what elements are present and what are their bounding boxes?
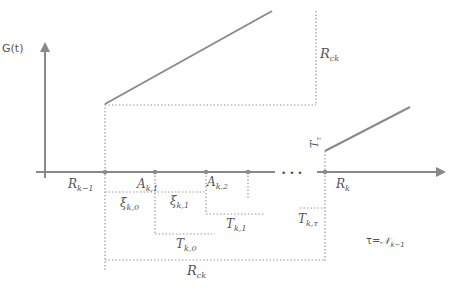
label-t-tau-vertical: Tτ — [308, 137, 323, 148]
label-r-k-minus-1: Rk−1 — [67, 177, 94, 193]
y-axis-label: G(t) — [2, 42, 23, 55]
label-t-ktau: Tk,τ — [298, 212, 318, 228]
renewal-process-diagram: G(t) Rk−1 Ak,1 Ak,2 • • • Rk ξk,0 ξk,1 — [0, 0, 463, 295]
ellipsis: • • • — [281, 168, 303, 178]
label-t-k0: Tk,0 — [176, 237, 197, 253]
label-xi-k1: ξk,1 — [170, 194, 189, 210]
x-axis — [36, 167, 446, 177]
label-a-k2: Ak,2 — [206, 175, 228, 191]
label-r-ck-right: Rck — [319, 46, 339, 63]
y-axis — [40, 42, 50, 178]
label-xi-k0: ξk,0 — [120, 196, 139, 212]
growth-line-1 — [105, 11, 272, 104]
tau-definition-note: τ=𝒩k−1 — [366, 235, 405, 249]
growth-line-2 — [325, 107, 410, 151]
label-t-k1: Tk,1 — [226, 217, 247, 233]
label-r-ck-bottom: Rck — [186, 263, 206, 280]
label-r-k: Rk — [335, 177, 350, 193]
